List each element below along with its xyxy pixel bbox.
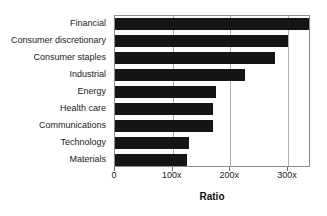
x-tick-label: 300x — [277, 170, 297, 180]
bar — [115, 120, 213, 132]
bar-chart: FinancialConsumer discretionaryConsumer … — [0, 0, 327, 216]
bar-fill — [115, 52, 275, 64]
bar — [115, 18, 309, 30]
bar — [115, 52, 275, 64]
bar-fill — [115, 120, 213, 132]
plot-area — [114, 15, 310, 167]
bar-fill — [115, 154, 187, 166]
bar — [115, 103, 213, 115]
category-label: Communications — [39, 120, 106, 130]
bar-fill — [115, 86, 216, 98]
bar — [115, 86, 216, 98]
chart-title-cropped — [0, 0, 327, 5]
x-tick-label: 200x — [220, 170, 240, 180]
category-label: Technology — [60, 137, 106, 147]
bar — [115, 154, 187, 166]
bar — [115, 137, 189, 149]
bar-series — [115, 16, 309, 166]
category-label: Energy — [77, 86, 106, 96]
x-tick-label: 0 — [111, 170, 116, 180]
bar — [115, 35, 288, 47]
category-axis-labels: FinancialConsumer discretionaryConsumer … — [0, 15, 110, 167]
bar-fill — [115, 137, 189, 149]
bar-fill — [115, 103, 213, 115]
x-tick-label: 100x — [162, 170, 182, 180]
category-label: Industrial — [69, 69, 106, 79]
category-label: Health care — [60, 103, 106, 113]
category-label: Consumer discretionary — [11, 35, 106, 45]
bar-fill — [115, 69, 245, 81]
category-label: Materials — [69, 154, 106, 164]
bar — [115, 69, 245, 81]
category-label: Consumer staples — [33, 52, 106, 62]
category-label: Financial — [70, 18, 106, 28]
x-axis-title: Ratio — [114, 191, 310, 202]
bar-fill — [115, 35, 288, 47]
bar-fill — [115, 18, 309, 30]
